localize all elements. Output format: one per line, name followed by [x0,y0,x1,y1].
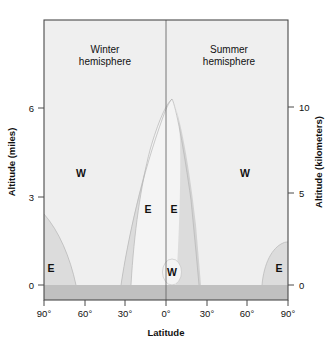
region-label-westerlies-summer: W [240,167,250,179]
summer-hemisphere-label-line2: hemisphere [203,56,256,67]
x-axis-title: Latitude [148,327,185,338]
summer-hemisphere-label-line1: Summer [210,44,248,55]
ytick-label-right-10: 10 [299,102,310,113]
ytick-label-right-0: 0 [299,280,304,291]
ytick-label-right-5: 5 [299,188,304,199]
ytick-label-left-0: 0 [29,280,34,291]
y-axis-title-right: Altitude (kilometers) [313,116,324,208]
xtick-label-30-winter: 30° [118,308,133,319]
xtick-label-90-summer: 90° [281,308,296,319]
xtick-label-30-summer: 30° [200,308,215,319]
chart-figure: Winter hemisphere Summer hemisphere W E … [0,0,330,344]
region-label-westerlies-winter: W [76,167,86,179]
wind-latitude-altitude-chart: Winter hemisphere Summer hemisphere W E … [0,0,330,344]
region-label-easterlies-winter-polar: E [47,262,54,274]
xtick-label-60-summer: 60° [240,308,255,319]
xtick-label-90-winter: 90° [37,308,52,319]
y-axis-title-left: Altitude (miles) [6,128,17,197]
winter-hemisphere-label-line2: hemisphere [79,56,132,67]
region-label-westerlies-equatorial-surface: W [167,266,177,278]
region-label-easterlies-tropical: E [170,203,177,215]
xtick-label-60-winter: 60° [78,308,93,319]
region-label-easterlies-summer-polar: E [275,262,282,274]
region-label-easterlies-winter-subtropical: E [144,203,151,215]
ytick-label-left-6: 6 [29,103,34,114]
ytick-label-left-3: 3 [29,192,34,203]
winter-hemisphere-label-line1: Winter [91,44,121,55]
xtick-label-0: 0° [161,308,170,319]
